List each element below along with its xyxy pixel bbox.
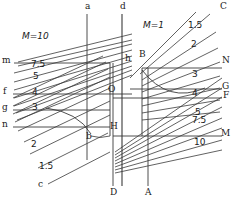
left-lower-line-4 <box>15 77 110 122</box>
right-mach-value-2: 2 <box>191 40 197 49</box>
right-lower-fan <box>115 78 222 173</box>
point-label-h: h <box>125 54 131 63</box>
right-label-M: M <box>221 129 230 138</box>
point-label-H: H <box>110 122 118 131</box>
right-mach-value-1p5: 1.5 <box>188 21 202 30</box>
left-mach-value-2: 2 <box>31 140 37 149</box>
left-label-f: f <box>3 87 6 96</box>
top-tick-label-d: d <box>120 2 126 11</box>
left-lower-line-2 <box>13 62 106 106</box>
left-mach-value-3: 3 <box>32 103 38 112</box>
left-family-label-mach: M=10 <box>22 32 49 41</box>
left-mach-value-4: 4 <box>32 88 38 97</box>
left-mach-value-5: 5 <box>33 72 39 81</box>
bottom-tick-label-A: A <box>145 188 152 197</box>
right-label-C: C <box>220 2 227 11</box>
left-label-g: g <box>2 103 8 112</box>
point-label-B: B <box>139 50 146 59</box>
point-label-b: b <box>86 132 92 141</box>
right-line-m10 <box>142 112 220 120</box>
left-label-n: n <box>2 120 8 129</box>
right-mach-value-7p5: 7.5 <box>192 116 206 125</box>
left-mach-value-7p5: 7.5 <box>31 60 45 69</box>
right-mach-value-3: 3 <box>192 70 198 79</box>
right-label-N: N <box>222 56 230 65</box>
point-label-O: O <box>108 85 115 94</box>
left-lower-line-9 <box>48 152 110 184</box>
right-family-label-mach: M=1 <box>143 21 164 30</box>
left-label-m: m <box>2 56 11 65</box>
right-label-F: F <box>223 91 229 100</box>
left-lower-fan <box>13 56 110 184</box>
right-mach-value-4: 4 <box>192 89 198 98</box>
top-tick-label-a: a <box>85 2 90 11</box>
right-mach-value-10: 10 <box>194 138 205 147</box>
left-mach-value-1p5: 1.5 <box>39 162 53 171</box>
left-lower-line-7 <box>30 115 110 154</box>
bottom-tick-label-D: D <box>110 188 117 197</box>
point-label-c: c <box>38 180 43 189</box>
figure-container: a d D A m f g n C N G F M h B O H b c M=… <box>0 0 236 207</box>
right-line-m2 <box>142 32 216 80</box>
right-lower-line-3 <box>115 97 222 158</box>
